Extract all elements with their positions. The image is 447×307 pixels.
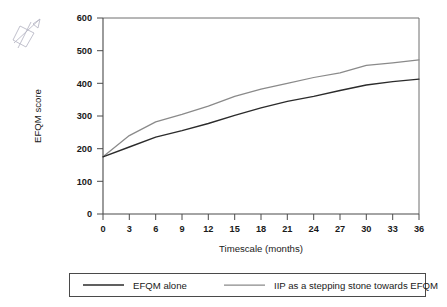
x-tick-label-24: 24 [309,224,320,234]
y-tick-label-400: 400 [77,79,92,89]
legend-label-efqm-alone: EFQM alone [133,280,187,291]
x-tick-label-6: 6 [153,224,158,234]
y-tick-label-0: 0 [87,209,92,219]
series-line-efqm-alone [103,79,419,157]
x-tick-label-3: 3 [127,224,132,234]
y-axis-tick-labels: 0 100 200 300 400 500 600 [77,13,92,219]
x-axis-title: Timescale (months) [219,243,303,254]
legend-label-iip-stepping-stone: IIP as a stepping stone towards EFQM [274,280,438,291]
y-tick-label-300: 300 [77,111,92,121]
x-tick-label-18: 18 [256,224,266,234]
x-tick-label-27: 27 [335,224,345,234]
x-tick-label-33: 33 [388,224,398,234]
y-tick-label-100: 100 [77,177,92,187]
x-axis-ticks [103,214,419,220]
chart-figure: 0 100 200 300 400 500 600 0 3 [0,0,447,307]
handwritten-scribble-mark [13,19,40,48]
chart-legend: EFQM alone IIP as a stepping stone towar… [70,274,439,297]
y-tick-label-500: 500 [77,46,92,56]
y-axis-title: EFQM score [32,89,43,143]
x-tick-label-21: 21 [282,224,292,234]
efqm-score-line-chart: 0 100 200 300 400 500 600 0 3 [0,0,447,307]
x-tick-label-30: 30 [361,224,371,234]
plot-frame [103,18,419,214]
y-tick-label-200: 200 [77,144,92,154]
x-tick-label-9: 9 [179,224,184,234]
x-tick-label-15: 15 [230,224,240,234]
x-tick-label-36: 36 [414,224,424,234]
x-axis-tick-labels: 0 3 6 9 12 15 18 21 24 27 30 33 36 [100,224,424,234]
x-tick-label-12: 12 [203,224,213,234]
y-tick-label-600: 600 [77,13,92,23]
x-tick-label-0: 0 [100,224,105,234]
y-axis-ticks [97,18,103,214]
